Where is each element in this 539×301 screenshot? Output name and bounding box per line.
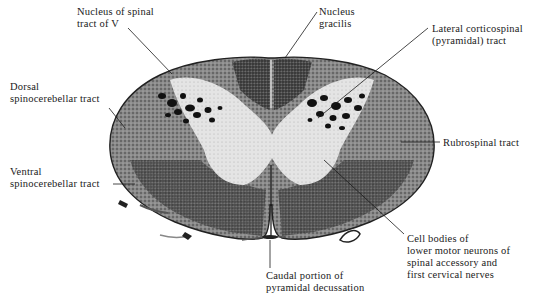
label-line: lower motor neurons of [407,245,510,257]
label-line: Ventral [10,166,100,178]
label-line: spinocerebellar tract [10,178,100,190]
label-line: Rubrospinal tract [443,137,519,149]
label-line: (pyramidal) tract [432,35,523,47]
label-line: spinal accessory and [407,257,510,269]
label-nucleus-gracilis: Nucleus gracilis [319,6,355,30]
label-nucleus-spinal-tract-v: Nucleus of spinal tract of V [77,6,154,30]
label-line: Nucleus of spinal [77,6,154,18]
label-line: pyramidal decussation [266,282,364,294]
label-line: Nucleus [319,6,355,18]
label-line: Caudal portion of [266,270,364,282]
label-line: Cell bodies of [407,233,510,245]
label-line: first cervical nerves [407,269,510,281]
diagram-canvas: Nucleus of spinal tract of V Nucleus gra… [0,0,539,301]
label-lateral-corticospinal-tract: Lateral corticospinal (pyramidal) tract [432,23,523,47]
label-line: Lateral corticospinal [432,23,523,35]
label-rubrospinal-tract: Rubrospinal tract [443,137,519,149]
label-line: spinocerebellar tract [10,93,100,105]
label-line: Dorsal [10,81,100,93]
label-line: gracilis [319,18,355,30]
label-dorsal-spinocerebellar-tract: Dorsal spinocerebellar tract [10,81,100,105]
label-caudal-pyramidal-decussation: Caudal portion of pyramidal decussation [266,270,364,294]
label-ventral-spinocerebellar-tract: Ventral spinocerebellar tract [10,166,100,190]
label-line: tract of V [77,18,154,30]
label-cell-bodies-lower-motor-neurons: Cell bodies of lower motor neurons of sp… [407,233,510,281]
